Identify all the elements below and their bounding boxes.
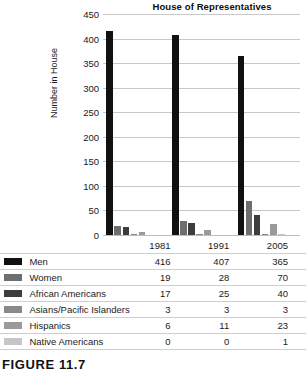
y-tick-label-100: 100 xyxy=(83,180,99,191)
bar-1991-men xyxy=(172,35,179,235)
legend-label-asians-pacific-islanders: Asians/Pacific Islanders xyxy=(27,302,129,318)
plot-area: 050100150200250300350400450 xyxy=(103,14,300,236)
cell-hispanics-2005: 23 xyxy=(247,318,306,334)
cell-men-1991: 407 xyxy=(188,254,247,270)
column-header-year-2: 2005 xyxy=(247,238,306,254)
cell-native-americans-2005: 1 xyxy=(247,334,306,350)
cell-native-americans-1991: 0 xyxy=(188,334,247,350)
bar-1991-women xyxy=(180,221,187,235)
y-tick-label-50: 50 xyxy=(88,205,99,216)
cell-african-americans-1991: 25 xyxy=(188,286,247,302)
axis-baseline xyxy=(103,235,300,236)
bar-group-2005 xyxy=(238,14,285,235)
legend-swatch-icon xyxy=(4,274,22,281)
legend-label-hispanics: Hispanics xyxy=(27,318,129,334)
y-tick-label-450: 450 xyxy=(83,9,99,20)
table-row: Asians/Pacific Islanders333 xyxy=(0,302,306,318)
bar-1991-asians-pacific-islanders xyxy=(196,234,203,236)
legend-label-men: Men xyxy=(27,254,129,270)
bar-2005-women xyxy=(246,201,253,235)
bar-1981-women xyxy=(114,226,121,235)
bar-2005-hispanics xyxy=(270,224,277,235)
table-row: African Americans172540 xyxy=(0,286,306,302)
table-row: Women192870 xyxy=(0,270,306,286)
bar-1991-hispanics xyxy=(204,230,211,235)
table-header-row: 1981 1991 2005 xyxy=(0,238,306,254)
legend-label-african-americans: African Americans xyxy=(27,286,129,302)
legend-swatch-cell xyxy=(0,286,27,302)
chart-title: House of Representatives xyxy=(118,1,306,12)
table-row: Hispanics61123 xyxy=(0,318,306,334)
figure-caption: FIGURE 11.7 xyxy=(2,357,86,372)
bar-2005-asians-pacific-islanders xyxy=(262,234,269,236)
cell-native-americans-1981: 0 xyxy=(130,334,189,350)
bar-1981-hispanics xyxy=(139,232,146,235)
legend-swatch-cell xyxy=(0,302,27,318)
bar-1991-african-americans xyxy=(188,223,195,235)
y-tick-label-400: 400 xyxy=(83,33,99,44)
y-tick-label-300: 300 xyxy=(83,82,99,93)
legend-swatch-cell xyxy=(0,270,27,286)
legend-swatch-icon xyxy=(4,258,22,265)
legend-swatch-icon xyxy=(4,338,22,345)
legend-label-women: Women xyxy=(27,270,129,286)
cell-hispanics-1991: 11 xyxy=(188,318,247,334)
column-header-year-1: 1991 xyxy=(188,238,247,254)
cell-african-americans-2005: 40 xyxy=(247,286,306,302)
table-row: Native Americans001 xyxy=(0,334,306,350)
column-header-year-0: 1981 xyxy=(130,238,189,254)
legend-swatch-icon xyxy=(4,290,22,297)
bar-1981-asians-pacific-islanders xyxy=(131,234,138,236)
legend-swatch-cell xyxy=(0,318,27,334)
y-tick-label-150: 150 xyxy=(83,156,99,167)
cell-men-2005: 365 xyxy=(247,254,306,270)
legend-swatch-icon xyxy=(4,306,22,313)
legend-swatch-cell xyxy=(0,334,27,350)
cell-asians-pacific-islanders-1991: 3 xyxy=(188,302,247,318)
legend-swatch-icon xyxy=(4,322,22,329)
cell-asians-pacific-islanders-2005: 3 xyxy=(247,302,306,318)
legend-swatch-cell xyxy=(0,254,27,270)
header-swatch-spacer xyxy=(0,238,27,254)
table-bottom-rule-cell xyxy=(0,350,306,351)
bar-2005-native-americans xyxy=(278,234,285,236)
legend-label-native-americans: Native Americans xyxy=(27,334,129,350)
bar-group-1991 xyxy=(172,14,219,235)
header-label-spacer xyxy=(27,238,129,254)
bar-1981-african-americans xyxy=(123,227,130,235)
bar-2005-men xyxy=(238,56,245,235)
y-tick-label-350: 350 xyxy=(83,58,99,69)
cell-women-1991: 28 xyxy=(188,270,247,286)
bar-2005-african-americans xyxy=(254,215,261,235)
y-axis-label: Number in House xyxy=(49,23,59,143)
y-tick-label-200: 200 xyxy=(83,131,99,142)
cell-african-americans-1981: 17 xyxy=(130,286,189,302)
cell-asians-pacific-islanders-1981: 3 xyxy=(130,302,189,318)
y-tick-label-250: 250 xyxy=(83,107,99,118)
bar-1981-men xyxy=(106,31,113,235)
table-bottom-rule xyxy=(0,350,306,351)
legend-data-table: 1981 1991 2005 Men416407365Women192870Af… xyxy=(0,238,306,350)
bar-group-1981 xyxy=(106,14,153,235)
cell-men-1981: 416 xyxy=(130,254,189,270)
cell-women-1981: 19 xyxy=(130,270,189,286)
cell-hispanics-1981: 6 xyxy=(130,318,189,334)
table-row: Men416407365 xyxy=(0,254,306,270)
cell-women-2005: 70 xyxy=(247,270,306,286)
